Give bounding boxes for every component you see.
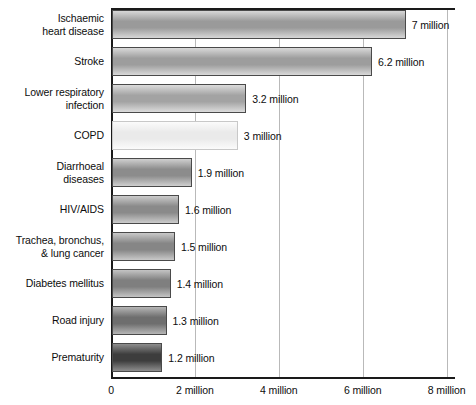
x-tick-label: 8 million bbox=[428, 384, 466, 396]
category-label: HIV/AIDS bbox=[0, 203, 104, 215]
gridline-8m bbox=[447, 10, 448, 377]
bar bbox=[112, 232, 175, 261]
bar bbox=[112, 195, 179, 224]
x-axis-line bbox=[111, 377, 455, 379]
bar-value-label: 7 million bbox=[412, 19, 450, 31]
x-tick-label: 2 million bbox=[176, 384, 214, 396]
category-label: Stroke bbox=[0, 55, 104, 67]
bar-value-label: 3.2 million bbox=[252, 93, 298, 105]
category-label: Diarrhoeal diseases bbox=[0, 160, 104, 185]
bar bbox=[112, 306, 167, 335]
category-label: Prematurity bbox=[0, 351, 104, 363]
bar-chart: Ischaemic heart diseaseStrokeLower respi… bbox=[0, 0, 476, 405]
bar-value-label: 1.6 million bbox=[185, 204, 231, 216]
category-axis-labels: Ischaemic heart diseaseStrokeLower respi… bbox=[0, 8, 104, 379]
bar bbox=[112, 84, 246, 113]
category-label: Lower respiratory infection bbox=[0, 86, 104, 111]
category-label: Trachea, bronchus, & lung cancer bbox=[0, 234, 104, 259]
bar-value-label: 3 million bbox=[244, 130, 282, 142]
bar bbox=[112, 47, 372, 76]
category-label: COPD bbox=[0, 129, 104, 141]
bar bbox=[112, 158, 192, 187]
bar-value-label: 1.2 million bbox=[168, 352, 214, 364]
bar-value-label: 1.3 million bbox=[173, 315, 219, 327]
bar-value-label: 6.2 million bbox=[378, 56, 424, 68]
bar-value-label: 1.4 million bbox=[177, 278, 223, 290]
bar bbox=[112, 269, 171, 298]
category-label: Road injury bbox=[0, 314, 104, 326]
bar-value-label: 1.9 million bbox=[198, 167, 244, 179]
x-tick-label: 4 million bbox=[260, 384, 298, 396]
category-label: Diabetes mellitus bbox=[0, 277, 104, 289]
x-tick-label: 6 million bbox=[344, 384, 382, 396]
category-label: Ischaemic heart disease bbox=[0, 12, 104, 37]
bar bbox=[112, 121, 238, 150]
x-tick-label: 0 bbox=[108, 384, 114, 396]
bar bbox=[112, 10, 406, 39]
bar-value-label: 1.5 million bbox=[181, 241, 227, 253]
bar bbox=[112, 343, 162, 372]
